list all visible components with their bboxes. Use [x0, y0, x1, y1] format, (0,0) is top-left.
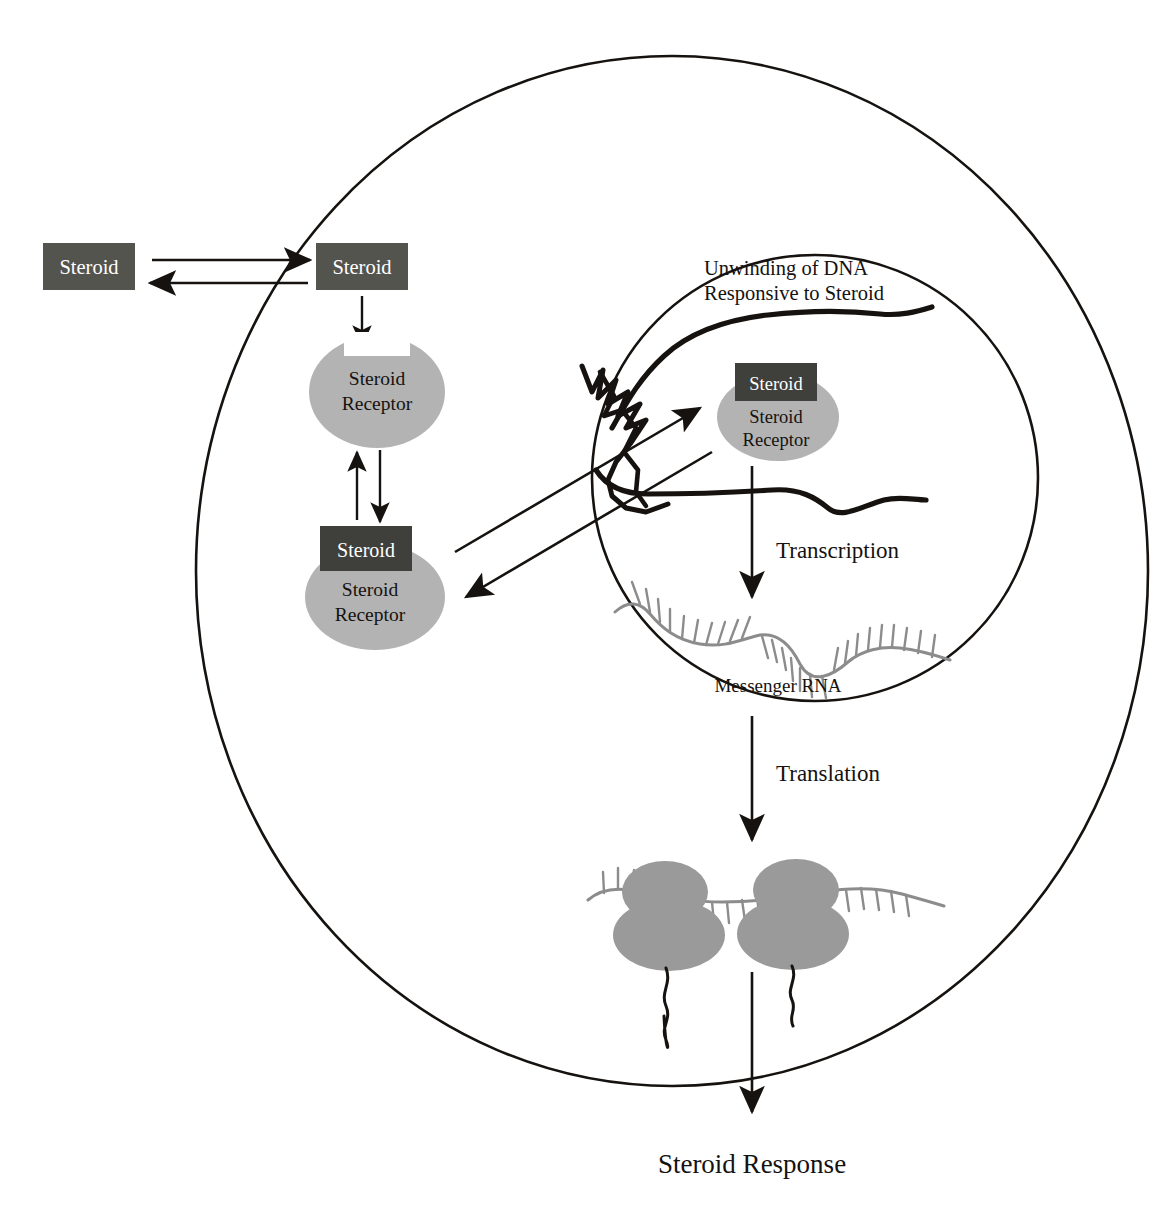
transcription-label: Transcription	[776, 538, 900, 563]
steroid-signaling-diagram: Steroid Steroid Steroid Receptor Steroid…	[0, 0, 1169, 1217]
bound-receptor-label-line2: Receptor	[743, 430, 810, 450]
dna-caption-line2: Responsive to Steroid	[704, 282, 884, 305]
diagram-canvas: Steroid Steroid Steroid Receptor Steroid…	[0, 0, 1169, 1217]
extracellular-steroid-label: Steroid	[59, 256, 118, 278]
dna-caption-line1: Unwinding of DNA	[704, 257, 868, 280]
bound-steroid-label: Steroid	[749, 374, 803, 394]
free-receptor-label-line1: Steroid	[349, 368, 406, 389]
complex-receptor-label-line1: Steroid	[342, 579, 399, 600]
complex-steroid-label: Steroid	[337, 539, 395, 561]
translation-label: Translation	[776, 761, 880, 786]
bound-receptor-label-line1: Steroid	[749, 407, 803, 427]
nucleus-membrane	[592, 255, 1038, 701]
extracellular-steroid: Steroid	[43, 243, 135, 290]
steroid-response-label: Steroid Response	[658, 1149, 846, 1179]
ribosome-1-large-subunit	[613, 899, 725, 971]
free-receptor-binding-notch	[344, 332, 410, 356]
free-receptor-label-line2: Receptor	[342, 393, 413, 414]
cytoplasmic-steroid-label: Steroid	[332, 256, 391, 278]
complex-receptor-label-line2: Receptor	[335, 604, 406, 625]
ribosome-2-large-subunit	[737, 898, 849, 970]
messenger-rna-label: Messenger RNA	[714, 675, 841, 696]
cytoplasmic-steroid: Steroid	[316, 243, 408, 290]
